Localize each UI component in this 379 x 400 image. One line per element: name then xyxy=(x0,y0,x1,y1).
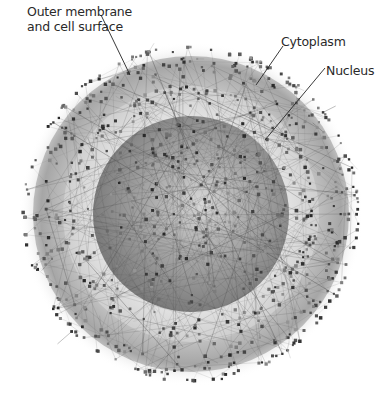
nucleus-label: Nucleus xyxy=(326,63,374,78)
cell-network-diagram: Outer membrane and cell surface Cytoplas… xyxy=(0,0,379,400)
outer-membrane-label-line2: and cell surface xyxy=(27,19,132,34)
outer-membrane-label-line1: Outer membrane xyxy=(27,4,132,19)
cytoplasm-label: Cytoplasm xyxy=(281,34,346,49)
outer-membrane-label: Outer membrane and cell surface xyxy=(27,4,132,34)
cell-diagram-canvas xyxy=(0,0,379,400)
